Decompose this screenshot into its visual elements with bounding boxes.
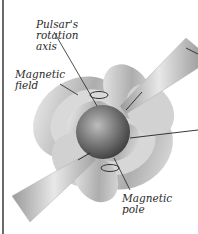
magnetic-field-label: Magnetic field (15, 69, 65, 91)
pulsar-diagram: Pulsar's rotation axis Magnetic field Ma… (0, 0, 198, 234)
label-line: axis (36, 41, 78, 52)
label-line: field (15, 80, 65, 91)
label-line: pole (122, 204, 172, 215)
rotation-axis-label: Pulsar's rotation axis (36, 19, 78, 52)
neutron-star (76, 105, 130, 159)
magnetic-pole-label: Magnetic pole (122, 193, 172, 215)
